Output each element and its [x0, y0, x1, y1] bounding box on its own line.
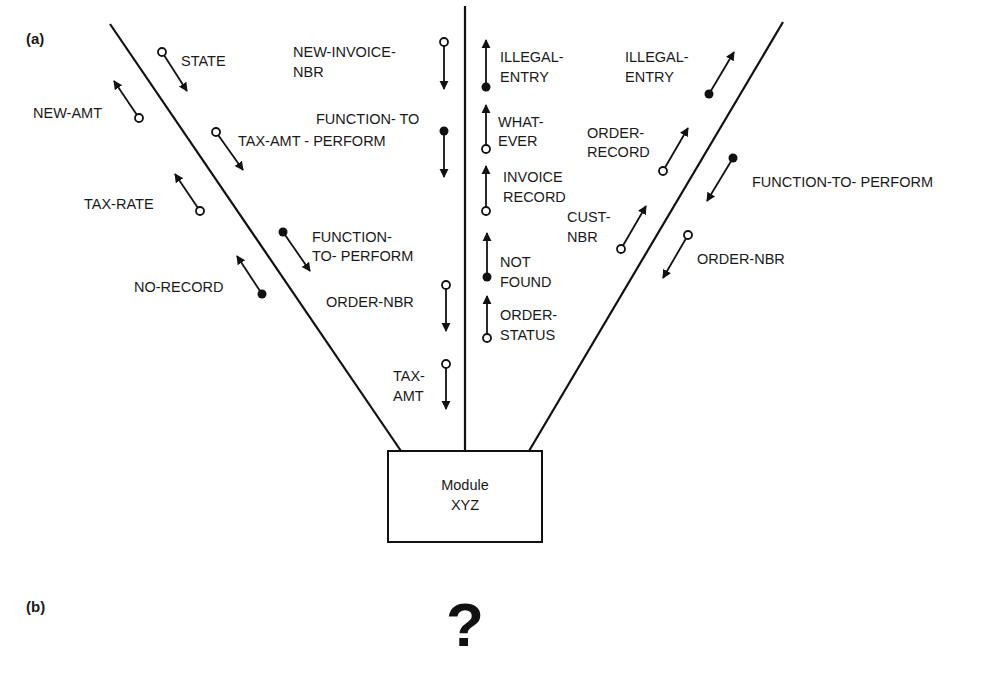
couple-label: RECORD [587, 144, 650, 160]
couple-order-status: ORDER- STATUS [483, 296, 557, 343]
open-circle-data-icon [659, 167, 667, 175]
couple-label: ORDER-NBR [697, 251, 785, 267]
couple-label: RECORD [503, 189, 566, 205]
couple-order-nbr-right: ORDER-NBR [663, 231, 785, 278]
couple-label: FUNCTION-TO- PERFORM [752, 174, 933, 190]
open-circle-data-icon [617, 245, 625, 253]
module-name-line1: Module [441, 477, 489, 493]
couple-label: EVER [498, 133, 538, 149]
open-circle-data-icon [442, 281, 450, 289]
arrow-up-right-icon [663, 128, 688, 171]
couple-state: STATE [158, 48, 226, 91]
arrow-up-left-icon [175, 174, 200, 211]
couple-label: NBR [567, 229, 598, 245]
arrow-down-right-icon [283, 232, 310, 271]
open-circle-data-icon [482, 207, 490, 215]
couple-illegal-entry-center: ILLEGAL- ENTRY [482, 40, 564, 92]
couple-order-record: ORDER- RECORD [587, 125, 688, 175]
couple-label: FUNCTION- [312, 229, 392, 245]
open-circle-data-icon [158, 48, 166, 56]
couple-label: FUNCTION- TO [316, 111, 419, 127]
couple-label: ORDER- [500, 307, 557, 323]
filled-circle-control-icon [482, 83, 491, 92]
couple-label: NOT [500, 254, 531, 270]
couple-function-to-perform-left: FUNCTION- TO- PERFORM [279, 228, 414, 272]
couple-order-nbr-center: ORDER-NBR [326, 281, 450, 331]
open-circle-data-icon [212, 128, 220, 136]
open-circle-data-icon [440, 38, 448, 46]
couple-label: NEW-INVOICE- [293, 44, 396, 60]
couple-label: NBR [293, 64, 324, 80]
couple-label: CUST- [567, 209, 611, 225]
couple-label: ILLEGAL- [500, 49, 564, 65]
question-mark: ? [446, 590, 484, 659]
couple-cust-nbr: CUST- NBR [567, 206, 646, 253]
open-circle-data-icon [482, 145, 490, 153]
couple-label: NEW-AMT [33, 105, 102, 121]
open-circle-data-icon [196, 207, 204, 215]
couple-label: TAX- [393, 368, 425, 384]
couple-label: WHAT- [498, 114, 544, 130]
module-box: Module XYZ [388, 451, 542, 542]
open-circle-data-icon [483, 334, 491, 342]
filled-circle-control-icon [705, 90, 714, 99]
couple-label: FOUND [500, 274, 552, 290]
couple-label: AMT [393, 388, 424, 404]
filled-circle-control-icon [279, 228, 288, 237]
couple-tax-amt-center: TAX- AMT [393, 360, 450, 409]
couple-no-record: NO-RECORD [134, 256, 267, 299]
couple-label: STATUS [500, 327, 555, 343]
couple-new-amt: NEW-AMT [33, 81, 143, 122]
arrow-up-right-icon [621, 206, 646, 249]
couple-label: TAX-AMT - PERFORM [238, 133, 386, 149]
filled-circle-control-icon [729, 154, 738, 163]
couple-tax-rate: TAX-RATE [84, 174, 204, 215]
open-circle-data-icon [442, 360, 450, 368]
open-circle-data-icon [684, 231, 692, 239]
structure-chart-diagram: (a) (b) Module XYZ ? STATE NEW-AMT TAX-A… [0, 0, 992, 682]
open-circle-data-icon [135, 114, 143, 122]
couple-label: ENTRY [500, 69, 549, 85]
couple-function-to-perform-right: FUNCTION-TO- PERFORM [707, 154, 933, 202]
couple-tax-amt: TAX-AMT - PERFORM [212, 128, 386, 170]
module-name-line2: XYZ [451, 497, 479, 513]
couple-label: NO-RECORD [134, 279, 223, 295]
filled-circle-control-icon [440, 127, 449, 136]
couple-invoice-record: INVOICE RECORD [482, 166, 566, 215]
couple-label: ORDER- [587, 125, 644, 141]
couple-label: INVOICE [503, 169, 563, 185]
couple-whatever: WHAT- EVER [482, 105, 544, 153]
filled-circle-control-icon [483, 273, 492, 282]
couple-new-invoice-nbr: NEW-INVOICE- NBR [293, 38, 448, 89]
arrow-down-left-icon [663, 235, 688, 278]
couple-illegal-entry-right: ILLEGAL- ENTRY [625, 49, 734, 99]
couple-label: STATE [181, 53, 226, 69]
panel-label-a: (a) [26, 30, 44, 47]
filled-circle-control-icon [258, 290, 267, 299]
arrow-up-left-icon [237, 256, 262, 294]
panel-label-b: (b) [26, 598, 45, 615]
arrow-up-left-icon [114, 81, 139, 118]
arrow-up-right-icon [709, 52, 734, 94]
couple-label: TO- PERFORM [312, 248, 413, 264]
couple-not-found: NOT FOUND [483, 233, 552, 290]
couple-label: ENTRY [625, 69, 674, 85]
couple-label: TAX-RATE [84, 196, 154, 212]
arrow-down-left-icon [707, 158, 733, 201]
couple-label: ORDER-NBR [326, 294, 414, 310]
couple-label: ILLEGAL- [625, 49, 689, 65]
